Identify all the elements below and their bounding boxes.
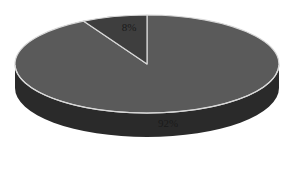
- pie-chart: 92% 8%: [0, 0, 297, 189]
- slice-label-8: 8%: [122, 21, 137, 33]
- slice-label-92: 92%: [158, 117, 178, 129]
- pie-tops: [15, 15, 279, 113]
